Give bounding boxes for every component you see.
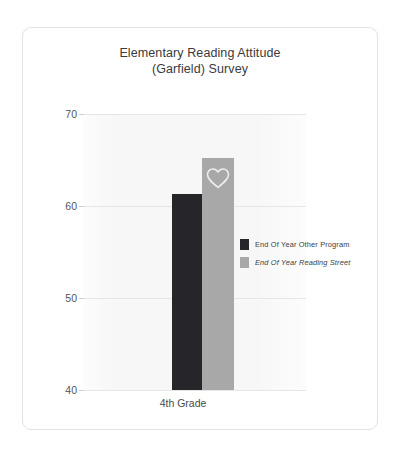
legend: End Of Year Other Program End Of Year Re… [240, 237, 350, 273]
ytick-label-50: 50 [41, 292, 77, 304]
legend-label-reading-street: End Of Year Reading Street [255, 258, 350, 267]
ytick-label-40: 40 [41, 384, 77, 396]
xaxis-category-label: 4th Grade [123, 397, 243, 409]
legend-swatch-other-program [240, 239, 249, 250]
chart-page: Elementary Reading Attitude (Garfield) S… [0, 0, 400, 457]
ytick-mark-40 [79, 390, 84, 391]
legend-item-other-program[interactable]: End Of Year Other Program [240, 237, 350, 252]
legend-swatch-reading-street [240, 257, 249, 268]
legend-label-other-program: End Of Year Other Program [255, 240, 350, 249]
plot-wrapper: 70 60 50 40 [23, 28, 379, 431]
legend-item-reading-street[interactable]: End Of Year Reading Street [240, 255, 350, 270]
ytick-label-70: 70 [41, 108, 77, 120]
bar-reading-street[interactable] [202, 158, 234, 390]
heart-icon [205, 166, 231, 190]
chart-card: Elementary Reading Attitude (Garfield) S… [22, 27, 378, 430]
ytick-label-60: 60 [41, 200, 77, 212]
bar-other-program[interactable] [172, 194, 202, 390]
gridline-40 [83, 390, 306, 391]
